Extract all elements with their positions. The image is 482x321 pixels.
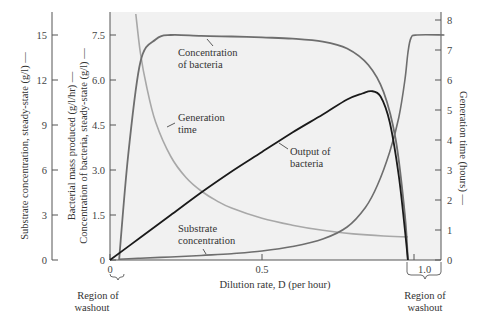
left-inner-tick-label: 0 <box>100 255 105 266</box>
right-tick-label: 1 <box>447 225 452 236</box>
left-inner-tick-label: 4.5 <box>92 120 105 131</box>
left-outer-tick-label: 6 <box>42 165 47 176</box>
washout-right-line1: Region of <box>404 290 446 301</box>
right-tick-label: 0 <box>447 255 452 266</box>
annotation-substrate-line1: Substrate <box>178 223 217 234</box>
left-outer-tick-label: 9 <box>42 120 47 131</box>
x-tick-label: 0 <box>107 264 112 275</box>
left-outer-tick-label: 3 <box>42 210 47 221</box>
right-tick-label: 5 <box>447 105 452 116</box>
left-inner-axis-title-2: Concentration of bacteria, steady-state … <box>78 48 90 244</box>
right-tick-label: 4 <box>447 135 453 146</box>
x-axis-title: Dilution rate, D (per hour) <box>219 279 331 291</box>
left-inner-tick-label: 7.5 <box>92 30 105 41</box>
left-outer-tick-label: 12 <box>37 75 48 86</box>
left-inner-tick-label: 1.5 <box>92 210 105 221</box>
right-tick-label: 7 <box>447 45 452 56</box>
left-inner-tick-label: 3.0 <box>92 165 105 176</box>
annotation-generation-line1: Generation <box>178 112 225 123</box>
left-inner-axis-title-1: Bacterial mass produced (g/l/hr) — <box>66 71 78 220</box>
left-inner-tick-label: 6.0 <box>92 75 105 86</box>
annotation-substrate-line2: concentration <box>178 235 236 246</box>
annotation-output-line1: Output of <box>290 146 331 157</box>
left-outer-tick-label: 15 <box>37 30 48 41</box>
annotation-bacteria-line2: of bacteria <box>178 59 223 70</box>
right-tick-label: 6 <box>447 75 452 86</box>
x-tick-label: 0.5 <box>255 264 268 275</box>
right-axis-title: Generation time (hours) — <box>457 91 469 206</box>
washout-left-line2: washout <box>75 302 110 313</box>
right-tick-label: 3 <box>447 165 452 176</box>
annotation-bacteria-line1: Concentration <box>178 47 238 58</box>
left-outer-axis-title: Substrate concentration, steady-state (g… <box>19 52 31 240</box>
annotation-generation-line2: time <box>178 124 197 135</box>
washout-right-line2: washout <box>408 302 443 313</box>
annotation-output-line2: bacteria <box>290 158 324 169</box>
left-outer-tick-label: 0 <box>42 255 47 266</box>
chart: 0369121501.53.04.56.07.501234567800.51.0… <box>0 0 482 321</box>
right-tick-label: 8 <box>447 15 452 26</box>
washout-left-line1: Region of <box>77 290 119 301</box>
x-tick-label: 1.0 <box>418 264 431 275</box>
right-tick-label: 2 <box>447 195 452 206</box>
